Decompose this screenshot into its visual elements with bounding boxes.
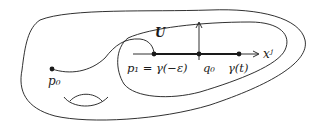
handle-upper-arc	[70, 94, 102, 101]
neighborhood-U-boundary	[118, 22, 287, 97]
label-axis-x-j: xʲ	[263, 47, 274, 61]
point-p1	[152, 52, 157, 57]
handle-lower-arc	[64, 97, 108, 106]
point-gamma-t	[237, 52, 242, 57]
label-U: U	[155, 26, 167, 40]
label-p1: p₁ = γ(−ε)	[127, 61, 188, 75]
diagram-svg: U p₀ p₁ = γ(−ε) q₀ γ(t) xʲ	[0, 0, 321, 127]
label-q0: q₀	[203, 61, 215, 75]
label-gamma-t: γ(t)	[228, 61, 248, 75]
manifold-diagram: U p₀ p₁ = γ(−ε) q₀ γ(t) xʲ	[0, 0, 321, 127]
point-q0	[197, 52, 202, 57]
label-p0: p₀	[48, 74, 61, 88]
point-p0	[50, 67, 55, 72]
